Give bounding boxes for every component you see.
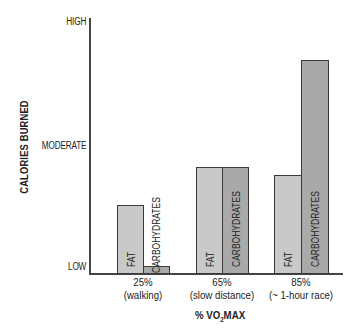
y-tick-low: LOW (68, 261, 86, 272)
y-axis-line (89, 18, 91, 274)
bar-fat-race: FAT (274, 175, 302, 274)
bar-label-fat: FAT (205, 252, 216, 267)
x-axis-title-suffix: MAX (224, 309, 246, 321)
y-axis-title: CALORIES BURNED (18, 100, 30, 193)
bar-label-carb: CARBOHYDRATES (231, 191, 242, 267)
y-tick-moderate: MODERATE (41, 140, 86, 151)
bar-chart: CALORIES BURNED HIGH MODERATE LOW FAT CA… (0, 0, 362, 336)
bar-fat-walking: FAT (117, 205, 144, 274)
x-category-pct: 85% (250, 276, 351, 289)
bar-label-carb: CARBOHYDRATES (310, 191, 321, 267)
bar-carb-race: CARBOHYDRATES (301, 60, 329, 274)
bar-carb-slow-distance: CARBOHYDRATES (222, 167, 249, 274)
bar-label-fat: FAT (126, 252, 137, 267)
bar-label-carb-walking: CARBOHYDRATES (151, 197, 162, 273)
bar-label-fat: FAT (283, 252, 294, 267)
x-axis-title-prefix: % VO (195, 309, 220, 321)
x-axis-title: % VO2MAX (167, 309, 273, 323)
x-category-desc: (~ 1-hour race) (250, 289, 351, 302)
y-tick-high: HIGH (66, 16, 86, 27)
bar-fat-slow-distance: FAT (196, 167, 223, 274)
x-category-race: 85% (~ 1-hour race) (250, 276, 351, 302)
